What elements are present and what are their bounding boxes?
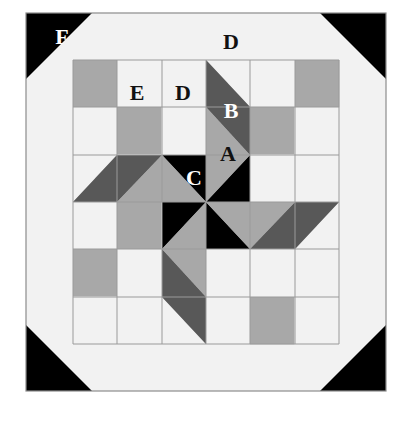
patch-r2c5 — [295, 155, 339, 202]
patch-r0c5 — [295, 60, 339, 107]
piece-label-d-inner: D — [175, 80, 191, 105]
piece-label-b: B — [224, 98, 239, 123]
patch-r2c4 — [250, 155, 294, 202]
patch-r5c4 — [250, 297, 294, 344]
patch-r0c4 — [250, 60, 294, 107]
piece-label-e: E — [130, 80, 145, 105]
quilt-block-figure: A B C D D E F — [0, 0, 411, 429]
patch-r5c1 — [117, 297, 161, 344]
quilt-svg: A B C D D E F — [0, 0, 411, 429]
patch-r1c0 — [73, 107, 117, 154]
patch-r3c0 — [73, 202, 117, 249]
patch-r5c0 — [73, 297, 117, 344]
piece-label-c: C — [186, 165, 202, 190]
patch-r1c4 — [250, 107, 294, 154]
patch-r4c1 — [117, 249, 161, 296]
patch-r5c5 — [295, 297, 339, 344]
piece-label-d-top: D — [223, 29, 239, 54]
patch-r4c3 — [206, 249, 250, 296]
patch-r4c4 — [250, 249, 294, 296]
piece-label-f: F — [55, 24, 68, 49]
patch-r1c5 — [295, 107, 339, 154]
patch-r0c0 — [73, 60, 117, 107]
patch-r3c1 — [117, 202, 161, 249]
piece-label-a: A — [220, 141, 236, 166]
patch-r5c3 — [206, 297, 250, 344]
patch-r1c2 — [162, 107, 206, 154]
patch-r4c5 — [295, 249, 339, 296]
patch-r1c1 — [117, 107, 161, 154]
patch-r4c0 — [73, 249, 117, 296]
